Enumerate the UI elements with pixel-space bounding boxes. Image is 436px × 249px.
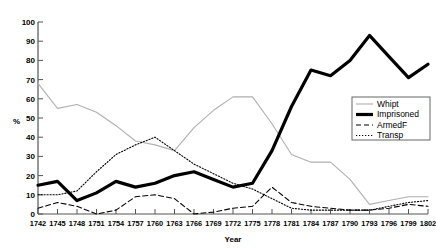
x-tick-label: 1760 [147, 219, 163, 228]
x-tick-label: 1763 [166, 219, 182, 228]
legend-label-transp: Transp [377, 130, 403, 140]
y-tick-label: 10 [26, 191, 35, 200]
x-tick-label: 1775 [244, 219, 260, 228]
x-tick-label: 1787 [322, 219, 338, 228]
y-tick-label: 20 [26, 172, 35, 181]
series-line-transp [38, 137, 428, 210]
x-tick-label: 1790 [342, 219, 358, 228]
y-axis-title: % [13, 117, 20, 126]
x-tick-label: 1751 [88, 219, 104, 228]
x-axis-title: Year [225, 235, 242, 244]
y-tick-label: 80 [26, 56, 35, 65]
y-tick-label: 90 [26, 37, 35, 46]
x-tick-label: 1781 [283, 219, 299, 228]
x-tick-label: 1742 [30, 219, 46, 228]
x-tick-label: 1796 [381, 219, 397, 228]
x-tick-label: 1793 [361, 219, 377, 228]
x-tick-label: 1799 [400, 219, 416, 228]
x-tick-label: 1784 [303, 219, 320, 228]
legend-label-armedf: ArmedF [377, 120, 407, 130]
y-tick-label: 40 [26, 133, 35, 142]
y-axis-ticks: 0102030405060708090100 [22, 18, 43, 219]
legend-label-imprisoned: Imprisoned [377, 109, 419, 119]
x-tick-label: 1766 [186, 219, 202, 228]
x-tick-label: 1754 [108, 219, 125, 228]
chart-legend: WhiptImprisonedArmedFTransp [352, 97, 430, 140]
x-tick-label: 1745 [49, 219, 65, 228]
x-axis-ticks: 1742174517481751175417571760176317661769… [30, 209, 436, 228]
line-chart: 0102030405060708090100 17421745174817511… [0, 0, 436, 249]
x-tick-label: 1757 [127, 219, 143, 228]
x-tick-label: 1772 [225, 219, 241, 228]
y-tick-label: 70 [26, 76, 35, 85]
y-tick-label: 60 [26, 95, 35, 104]
y-tick-label: 0 [31, 210, 36, 219]
y-tick-label: 50 [26, 114, 35, 123]
x-tick-label: 1778 [264, 219, 280, 228]
x-tick-label: 1748 [69, 219, 85, 228]
chart-container: 0102030405060708090100 17421745174817511… [0, 0, 436, 249]
y-tick-label: 30 [26, 152, 35, 161]
y-tick-label: 100 [22, 18, 36, 27]
x-tick-label: 1802 [420, 219, 436, 228]
legend-label-whipt: Whipt [377, 99, 399, 109]
x-tick-label: 1769 [205, 219, 221, 228]
